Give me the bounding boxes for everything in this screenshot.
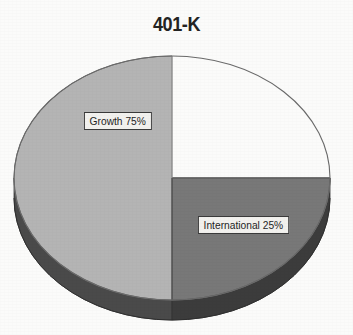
pie-chart-figure: 401-K Growth 75% International 25% xyxy=(0,0,353,335)
data-label-growth: Growth 75% xyxy=(84,112,151,130)
pie-chart-canvas xyxy=(0,0,353,335)
data-label-international: International 25% xyxy=(198,216,289,234)
pie-slice-international[interactable] xyxy=(172,178,330,300)
